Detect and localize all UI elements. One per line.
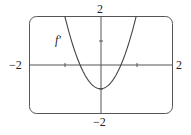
x-min-label: −2 bbox=[9, 59, 22, 71]
y-min-label: −2 bbox=[93, 116, 106, 128]
curve-label: f′ bbox=[55, 34, 61, 46]
y-max-label: 2 bbox=[97, 3, 103, 15]
x-max-label: 2 bbox=[176, 59, 182, 71]
